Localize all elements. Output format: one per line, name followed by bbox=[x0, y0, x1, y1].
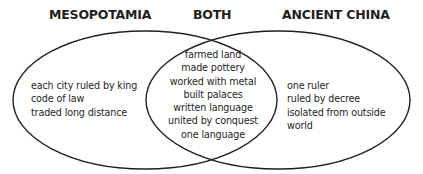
list-item: one language bbox=[163, 128, 263, 141]
ancient-china-only-list: one ruler ruled by decree isolated from … bbox=[287, 79, 385, 132]
venn-diagram: MESOPOTAMIA BOTH ANCIENT CHINA each city… bbox=[0, 0, 423, 174]
list-item: made pottery bbox=[163, 61, 263, 74]
shared-traits-list: farmed land made pottery worked with met… bbox=[163, 48, 263, 141]
list-item: traded long distance bbox=[31, 106, 137, 119]
list-item: written language bbox=[163, 101, 263, 114]
list-item: code of law bbox=[31, 92, 137, 105]
list-item: built palaces bbox=[163, 88, 263, 101]
heading-mesopotamia: MESOPOTAMIA bbox=[49, 7, 151, 22]
list-item: one ruler bbox=[287, 79, 385, 92]
list-item: each city ruled by king bbox=[31, 79, 137, 92]
list-item: worked with metal bbox=[163, 75, 263, 88]
list-item: united by conquest bbox=[163, 114, 263, 127]
list-item: isolated from outside bbox=[287, 106, 385, 119]
heading-ancient-china: ANCIENT CHINA bbox=[282, 7, 390, 22]
heading-both: BOTH bbox=[193, 7, 231, 22]
list-item: ruled by decree bbox=[287, 92, 385, 105]
list-item: world bbox=[287, 119, 385, 132]
list-item: farmed land bbox=[163, 48, 263, 61]
mesopotamia-only-list: each city ruled by king code of law trad… bbox=[31, 79, 137, 119]
